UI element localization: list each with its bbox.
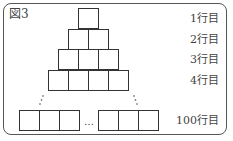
row-label-1: 1行目 <box>190 12 219 25</box>
square-cell <box>138 110 159 131</box>
row-label-2: 2行目 <box>190 33 219 46</box>
horizontal-ellipsis: … <box>84 117 94 126</box>
square-cell <box>98 110 119 131</box>
square-cell <box>39 110 60 131</box>
row-label-100: 100行目 <box>176 114 219 127</box>
row-label-4: 4行目 <box>190 74 219 87</box>
row-label-3: 3行目 <box>190 53 219 66</box>
square-cell <box>59 110 80 131</box>
square-cell <box>19 110 40 131</box>
square-cell <box>118 110 139 131</box>
